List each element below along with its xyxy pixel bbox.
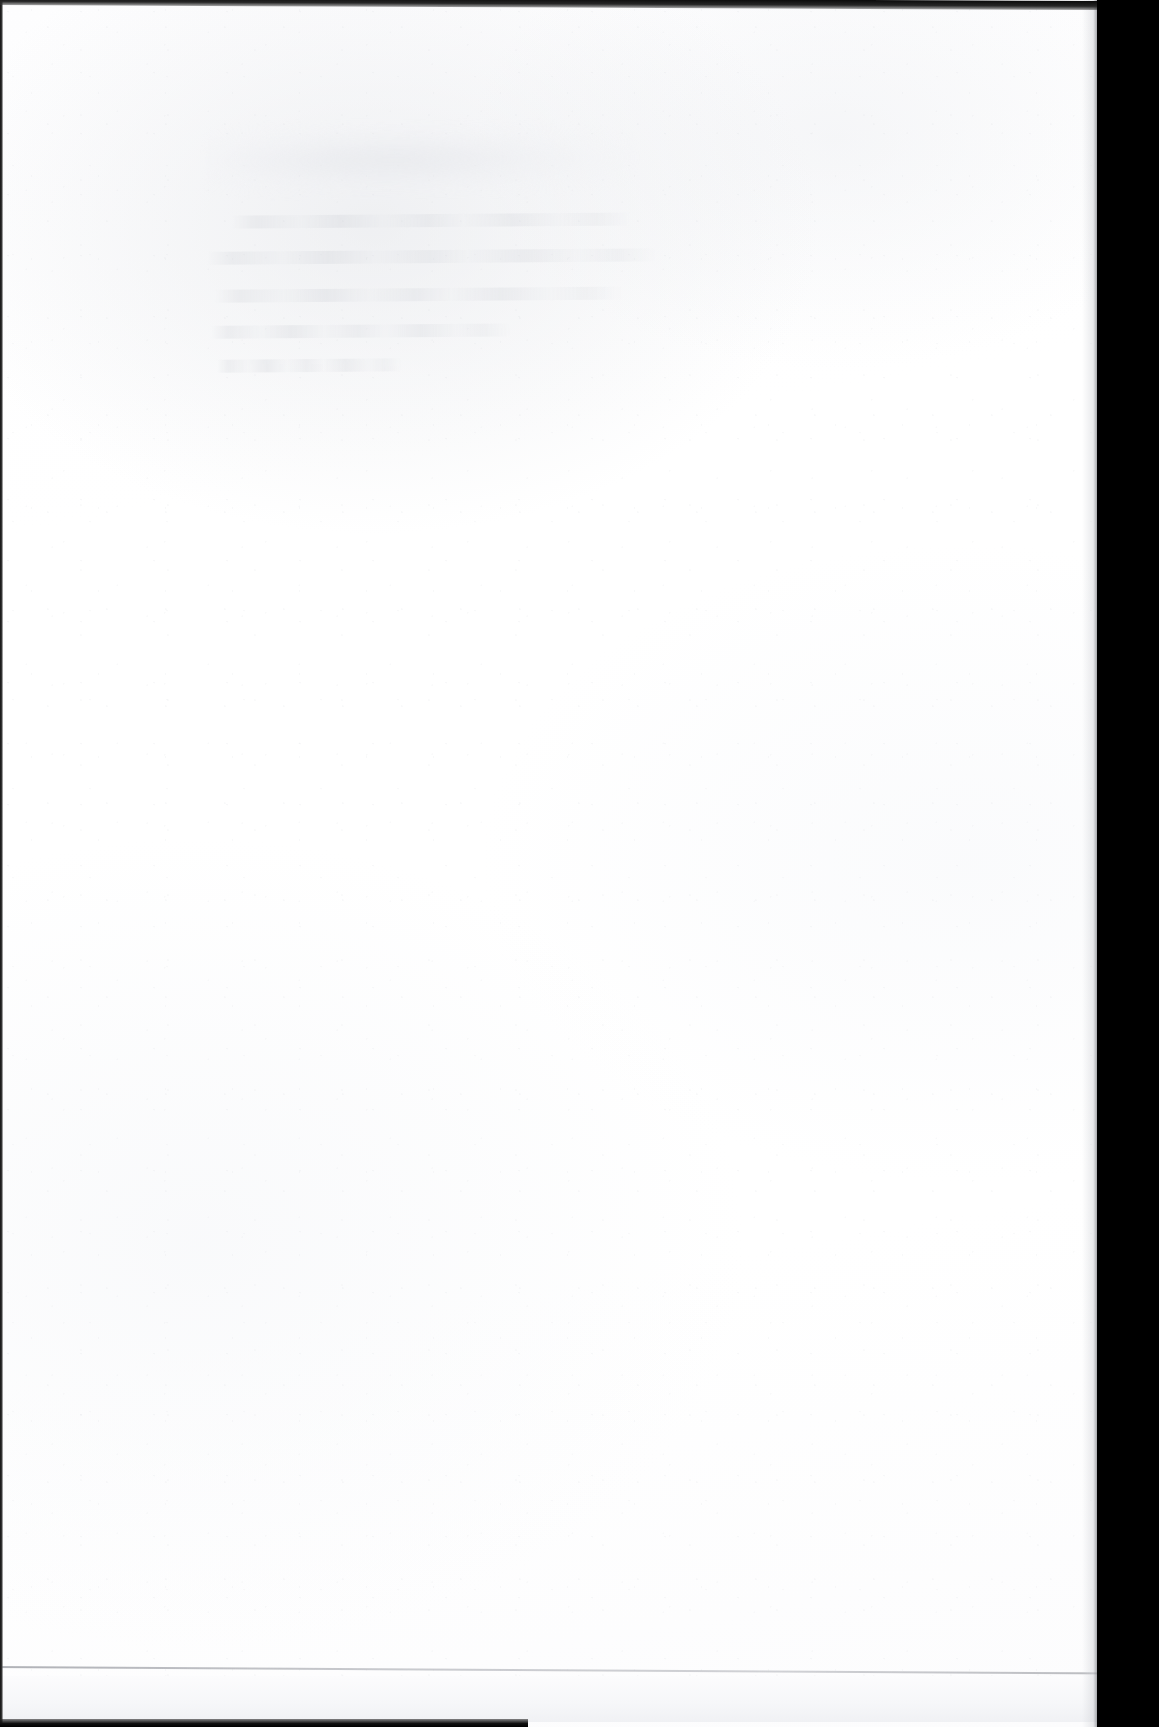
ghost-text-line xyxy=(211,323,511,338)
scanner-void-right xyxy=(1097,0,1159,1727)
ghost-text-line xyxy=(214,287,622,303)
ghost-text-line xyxy=(206,248,658,265)
paper-speckle-noise xyxy=(0,0,1099,1727)
below-rule-tone xyxy=(0,1676,1099,1722)
page-bottom-rule xyxy=(0,1666,1099,1674)
bleed-through-ghost-text xyxy=(195,116,689,382)
ghost-text-band xyxy=(205,120,636,197)
paper-grain-texture xyxy=(0,0,1099,1727)
ghost-text-line xyxy=(232,213,632,229)
ghost-text-line xyxy=(217,358,401,372)
page-right-edge-shadow xyxy=(1082,0,1098,1727)
page-edge-top xyxy=(0,0,1099,10)
page-edge-bottom xyxy=(0,1719,528,1727)
scanned-page-canvas xyxy=(0,0,1159,1727)
paper-surface xyxy=(0,0,1099,1727)
page-edge-left xyxy=(0,0,3,1727)
ghost-text-band xyxy=(239,133,569,188)
